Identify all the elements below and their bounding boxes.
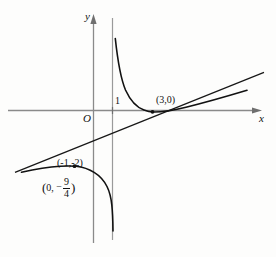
x-tick-label-1: 1 bbox=[115, 96, 120, 106]
tangent-line bbox=[15, 72, 264, 172]
y-axis-label: y bbox=[85, 11, 90, 22]
x-axis-label: x bbox=[259, 113, 264, 124]
annotation-x-part: 0, bbox=[46, 182, 54, 193]
annotation-point-0-minus-nine-fourths: (0, −94) bbox=[42, 178, 75, 200]
fraction-denominator: 4 bbox=[63, 188, 70, 200]
math-figure: y x O 1 (3,0) (-1,-2) (0, −94) bbox=[0, 0, 276, 257]
y-axis bbox=[90, 14, 96, 243]
curve-upper-branch bbox=[115, 39, 247, 113]
annotation-point-minus1-minus2: (-1,-2) bbox=[57, 158, 83, 168]
annotation-point-3-0: (3,0) bbox=[156, 95, 175, 105]
y-axis-arrow bbox=[90, 14, 96, 24]
point-marker-3-0 bbox=[151, 110, 155, 114]
fraction-numerator: 9 bbox=[63, 177, 70, 188]
x-axis bbox=[8, 107, 262, 113]
annotation-close-paren: ) bbox=[71, 180, 75, 195]
annotation-minus-sign: − bbox=[56, 181, 62, 192]
graph-canvas bbox=[0, 0, 276, 257]
annotation-fraction: 94 bbox=[63, 177, 70, 199]
origin-label: O bbox=[83, 113, 91, 124]
annotation-open-paren: ( bbox=[42, 180, 46, 195]
